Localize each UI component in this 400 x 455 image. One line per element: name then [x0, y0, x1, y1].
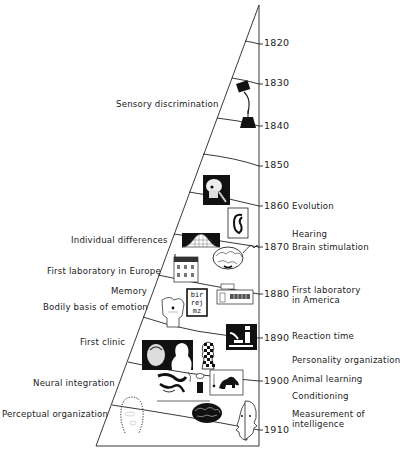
dotted-head-icon [121, 397, 143, 433]
bell-curve-icon [182, 233, 220, 247]
label-bodily-basis-of-emotion: Bodily basis of emotion [43, 302, 148, 312]
year-label-1880: 1880 [264, 289, 289, 299]
skull-icon [203, 175, 230, 205]
label-neural-integration: Neural integration [33, 378, 115, 388]
year-label-1910: 1910 [264, 425, 289, 435]
label-hearing: Hearing [292, 229, 327, 239]
letter-chart-icon: bir rej mz [187, 289, 207, 316]
label-individual-differences: Individual differences [71, 235, 168, 245]
portrait-icon [142, 340, 193, 370]
label-measurement-of-intelligence-line2: intelligence [292, 419, 344, 429]
label-memory: Memory [111, 286, 147, 296]
chess-pawn-icon [202, 342, 215, 369]
label-first-clinic: First clinic [80, 337, 125, 347]
svg-text:mz: mz [193, 307, 201, 315]
double-face-icon [236, 401, 257, 440]
building-icon [174, 254, 198, 282]
ear-icon [228, 208, 248, 238]
label-conditioning: Conditioning [292, 391, 349, 401]
laboratory-icon [217, 284, 253, 304]
year-label-1900: 1900 [264, 376, 289, 386]
neurons-icon [157, 372, 210, 401]
lion-icon [210, 370, 243, 395]
year-ticks [259, 44, 263, 430]
year-label-1850: 1850 [264, 160, 289, 170]
label-brain-stimulation: Brain stimulation [292, 242, 369, 252]
year-label-1860: 1860 [264, 201, 289, 211]
brain-icon [213, 245, 259, 269]
label-evolution: Evolution [292, 201, 334, 211]
year-label-1840: 1840 [264, 121, 289, 131]
arc-1910 [112, 405, 259, 430]
label-reaction-time: Reaction time [292, 331, 354, 341]
year-label-1890: 1890 [264, 333, 289, 343]
label-measurement-of-intelligence-line1: Measurement of [292, 409, 365, 419]
torso-icon [162, 298, 184, 328]
arc-1820 [245, 41, 259, 44]
reaction-apparatus-icon [226, 324, 257, 350]
arc-1850 [203, 154, 259, 166]
svg-text:bir: bir [191, 291, 204, 299]
brain-dark-icon [192, 403, 222, 423]
label-perceptual-organization: Perceptual organization [2, 409, 108, 419]
year-label-1870: 1870 [264, 242, 289, 252]
label-animal-learning: Animal learning [292, 374, 363, 384]
label-first-laboratory-america-line1: First laboratory [292, 285, 360, 295]
label-personality-organization: Personality organization [292, 355, 400, 365]
label-first-laboratory-europe: First laboratory in Europe [47, 266, 161, 276]
label-sensory-discrimination: Sensory discrimination [116, 99, 219, 109]
label-first-laboratory-america-line2: in America [292, 295, 340, 305]
year-label-1830: 1830 [264, 78, 289, 88]
svg-text:rej: rej [191, 299, 204, 307]
year-label-1820: 1820 [264, 38, 289, 48]
